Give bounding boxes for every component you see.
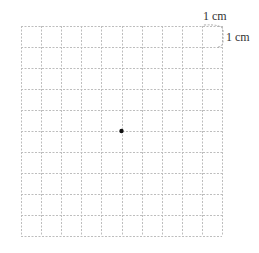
side-unit-label: 1 cm — [226, 30, 250, 45]
top-unit-label: 1 cm — [203, 9, 227, 24]
center-point — [119, 129, 123, 133]
grid-paper — [0, 0, 259, 253]
grid-diagram: 1 cm 1 cm — [0, 0, 259, 253]
unit-dimension-marker — [204, 25, 223, 47]
